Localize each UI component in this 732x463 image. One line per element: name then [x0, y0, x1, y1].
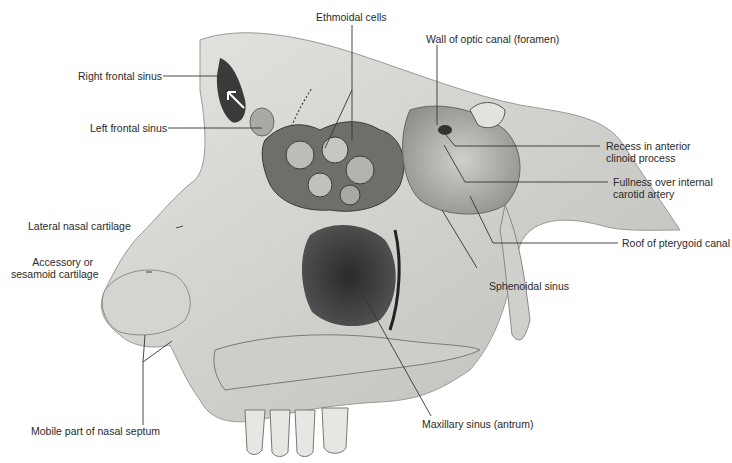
label-lateral-nasal-cartilage: Lateral nasal cartilage	[28, 220, 131, 232]
label-accessory-cartilage: Accessory or sesamoid cartilage	[11, 256, 93, 280]
left-frontal-sinus-cavity	[250, 108, 274, 136]
label-maxillary-sinus: Maxillary sinus (antrum)	[422, 418, 533, 430]
nasal-ala	[102, 270, 190, 335]
label-roof-pterygoid-canal: Roof of pterygoid canal	[622, 237, 730, 249]
ethmoidal-cells-region	[262, 122, 404, 212]
label-fullness-internal-carotid: Fullness over internal carotid artery	[613, 176, 713, 200]
label-right-frontal-sinus: Right frontal sinus	[78, 70, 162, 82]
label-recess-anterior-clinoid: Recess in anterior clinoid process	[606, 140, 691, 164]
label-mobile-nasal-septum: Mobile part of nasal septum	[31, 425, 160, 437]
maxillary-sinus-cavity	[302, 225, 396, 326]
label-wall-optic-canal: Wall of optic canal (foramen)	[426, 33, 559, 45]
label-left-frontal-sinus: Left frontal sinus	[90, 122, 167, 134]
label-ethmoidal-cells: Ethmoidal cells	[316, 11, 387, 23]
label-sphenoidal-sinus: Sphenoidal sinus	[489, 280, 569, 292]
maxillary-teeth	[245, 408, 348, 457]
